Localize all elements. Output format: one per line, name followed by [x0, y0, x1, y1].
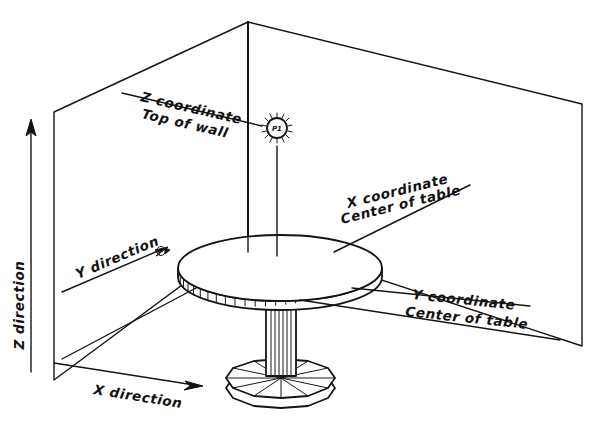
table-top-surface — [178, 235, 382, 301]
point-marker: P1 — [262, 113, 292, 143]
left-wall-outline — [54, 22, 248, 380]
y-coordinate-annotation: Y coordinate Center of table — [352, 286, 530, 332]
z-direction-axis — [26, 119, 36, 372]
z-direction-label: Z direction — [11, 260, 27, 350]
point-marker-label: P1 — [272, 125, 282, 133]
x-direction-label: X direction — [92, 381, 184, 411]
diagram-canvas: P1 Z direction Y direction X direction Z… — [0, 0, 592, 432]
room-coordinate-diagram: P1 Z direction Y direction X direction Z… — [0, 0, 592, 432]
table-top — [178, 235, 382, 310]
y-direction-label: Y direction — [73, 232, 161, 282]
floor-diagonal-line — [62, 288, 196, 359]
x-axis-shaft — [54, 363, 188, 384]
y-axis-arrow-tip-icon — [165, 248, 170, 254]
x-coordinate-annotation: X coordinate Center of table — [334, 170, 470, 252]
z-coordinate-annotation: Z coordinate Top of wall — [122, 88, 262, 141]
x-axis-arrowhead-icon — [184, 381, 203, 390]
round-pedestal-table — [178, 235, 382, 408]
